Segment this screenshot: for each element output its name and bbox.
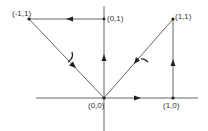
point-label: (0,1) — [107, 14, 123, 23]
angle-arc-right — [141, 59, 148, 62]
vertex-dot — [171, 96, 174, 99]
edge-right-diagonal — [104, 19, 173, 98]
point-label: (-1,1) — [12, 9, 31, 18]
arrow-up-icon — [102, 54, 107, 61]
point-label: (1,0) — [163, 101, 179, 110]
arrow-right-icon — [134, 96, 141, 101]
vertex-dot — [102, 96, 105, 99]
edge-left-diagonal — [29, 19, 104, 98]
vertex-dot — [103, 18, 106, 21]
point-label: (0,0) — [88, 101, 104, 110]
point-label: (1,1) — [175, 12, 191, 21]
arrow-left-icon — [66, 17, 73, 22]
arrow-up-icon — [171, 59, 176, 66]
